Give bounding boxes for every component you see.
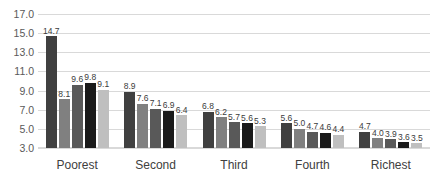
y-axis-tick-label: 17.0	[0, 9, 34, 20]
bar-value-label: 4.6	[320, 123, 332, 132]
bar-slot: 9.1	[98, 14, 109, 148]
bar[interactable]	[216, 117, 227, 148]
bar[interactable]	[85, 83, 96, 148]
bar-slot: 8.9	[124, 14, 135, 148]
bar[interactable]	[255, 126, 266, 148]
x-axis-category-label: Poorest	[38, 152, 116, 178]
bar-slot: 3.9	[385, 14, 396, 148]
bar-slot: 7.1	[150, 14, 161, 148]
bar-slot: 4.4	[333, 14, 344, 148]
bar-slot: 14.7	[46, 14, 57, 148]
x-axis-category-label: Fourth	[273, 152, 351, 178]
bar-value-label: 4.7	[307, 122, 319, 131]
bar-value-label: 3.6	[398, 133, 410, 142]
bar-value-label: 5.7	[228, 113, 240, 122]
x-axis-category-label: Second	[116, 152, 194, 178]
bar[interactable]	[359, 132, 370, 148]
x-axis-category-label: Richest	[352, 152, 430, 178]
bar-value-label: 8.1	[58, 90, 70, 99]
y-axis-tick-label: 13.0	[0, 47, 34, 58]
bar[interactable]	[229, 122, 240, 148]
bar-slot: 4.0	[372, 14, 383, 148]
bar-slot: 6.4	[176, 14, 187, 148]
x-axis: PoorestSecondThirdFourthRichest	[38, 152, 430, 178]
bar-value-label: 7.1	[150, 99, 162, 108]
bar[interactable]	[98, 90, 109, 148]
bar-group: 14.78.19.69.89.1	[38, 14, 116, 148]
bar-slot: 3.5	[411, 14, 422, 148]
bar-slot: 4.6	[320, 14, 331, 148]
bar-group-bars: 14.78.19.69.89.1	[38, 14, 116, 148]
bar[interactable]	[150, 109, 161, 148]
x-axis-category-label: Third	[195, 152, 273, 178]
bar[interactable]	[411, 143, 422, 148]
bar-value-label: 4.0	[372, 129, 384, 138]
bar[interactable]	[124, 92, 135, 148]
bar-value-label: 8.9	[124, 82, 136, 91]
bar-slot: 7.6	[137, 14, 148, 148]
bar-group: 8.97.67.16.96.4	[116, 14, 194, 148]
bar-value-label: 6.4	[176, 106, 188, 115]
bar[interactable]	[385, 139, 396, 148]
bar-slot: 9.8	[85, 14, 96, 148]
bar-slot: 5.3	[255, 14, 266, 148]
bar-value-label: 6.9	[163, 101, 175, 110]
bar-value-label: 4.7	[359, 122, 371, 131]
bar-value-label: 5.0	[294, 119, 306, 128]
bar[interactable]	[294, 129, 305, 148]
bar[interactable]	[46, 36, 57, 148]
bar-value-label: 5.6	[241, 114, 253, 123]
bar-slot: 8.1	[59, 14, 70, 148]
bar-group: 4.74.03.93.63.5	[352, 14, 430, 148]
y-axis-tick-label: 5.0	[0, 124, 34, 135]
bar[interactable]	[72, 85, 83, 148]
bar-value-label: 14.7	[43, 27, 60, 36]
bar-group-bars: 4.74.03.93.63.5	[352, 14, 430, 148]
bar-value-label: 9.1	[97, 80, 109, 89]
y-axis-tick-label: 7.0	[0, 104, 34, 115]
bar-slot: 3.6	[398, 14, 409, 148]
bar[interactable]	[59, 99, 70, 148]
bar-value-label: 6.2	[215, 108, 227, 117]
gridline	[38, 148, 430, 149]
y-axis: 17.015.013.011.09.07.05.03.0	[0, 14, 34, 148]
bar-chart: 17.015.013.011.09.07.05.03.0 14.78.19.69…	[0, 0, 440, 183]
bar-slot: 5.6	[242, 14, 253, 148]
bar[interactable]	[372, 138, 383, 148]
bar-group: 5.65.04.74.64.4	[273, 14, 351, 148]
bar-slot: 9.6	[72, 14, 83, 148]
bar-group-bars: 5.65.04.74.64.4	[273, 14, 351, 148]
y-axis-tick-label: 3.0	[0, 143, 34, 154]
bar[interactable]	[176, 115, 187, 148]
bar-group-bars: 6.86.25.75.65.3	[195, 14, 273, 148]
bar-value-label: 6.8	[202, 102, 214, 111]
bar-value-label: 4.4	[333, 125, 345, 134]
bar[interactable]	[242, 123, 253, 148]
bar-slot: 6.2	[216, 14, 227, 148]
bar-slot: 4.7	[359, 14, 370, 148]
bar[interactable]	[398, 142, 409, 148]
bar-value-label: 9.8	[84, 73, 96, 82]
bar[interactable]	[307, 132, 318, 148]
bar-slot: 5.0	[294, 14, 305, 148]
bar-value-label: 3.5	[411, 134, 423, 143]
bar-groups: 14.78.19.69.89.18.97.67.16.96.46.86.25.7…	[38, 14, 430, 148]
bar-slot: 5.6	[281, 14, 292, 148]
y-axis-tick-label: 11.0	[0, 66, 34, 77]
bar-value-label: 9.6	[71, 75, 83, 84]
y-axis-tick-label: 15.0	[0, 28, 34, 39]
bar[interactable]	[137, 104, 148, 148]
bar[interactable]	[163, 111, 174, 148]
bar[interactable]	[320, 133, 331, 148]
bar-value-label: 5.6	[281, 114, 293, 123]
bar-group: 6.86.25.75.65.3	[195, 14, 273, 148]
bar-slot: 4.7	[307, 14, 318, 148]
bar[interactable]	[203, 112, 214, 148]
bar-value-label: 5.3	[254, 117, 266, 126]
y-axis-tick-label: 9.0	[0, 85, 34, 96]
bar[interactable]	[281, 123, 292, 148]
bar[interactable]	[333, 135, 344, 148]
bar-slot: 6.8	[203, 14, 214, 148]
bar-slot: 6.9	[163, 14, 174, 148]
bar-group-bars: 8.97.67.16.96.4	[116, 14, 194, 148]
